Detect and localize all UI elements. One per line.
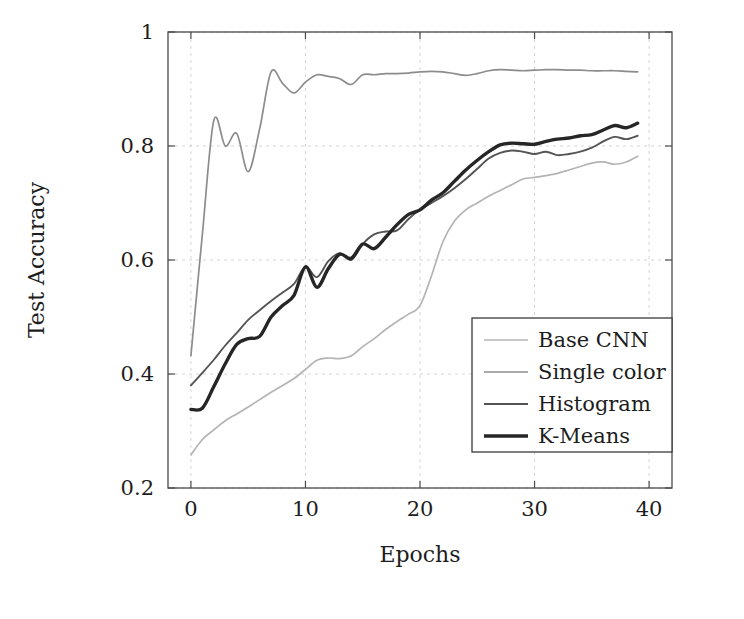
y-axis-title: Test Accuracy bbox=[24, 181, 49, 338]
y-axis-tick-labels: 0.20.40.60.81 bbox=[121, 20, 154, 500]
y-tick-label: 1 bbox=[141, 20, 154, 44]
legend-label-k-means: K-Means bbox=[538, 424, 630, 448]
x-tick-label: 10 bbox=[292, 497, 319, 521]
test-accuracy-line-chart: 010203040 0.20.40.60.81 Base CNNSingle c… bbox=[0, 0, 744, 619]
legend-label-histogram: Histogram bbox=[538, 392, 651, 416]
x-axis-tick-labels: 010203040 bbox=[184, 497, 662, 521]
y-tick-label: 0.2 bbox=[121, 476, 154, 500]
x-tick-label: 20 bbox=[407, 497, 434, 521]
chart-legend: Base CNNSingle colorHistogramK-Means bbox=[472, 318, 672, 452]
x-axis-title: Epochs bbox=[379, 542, 460, 567]
chart-figure: 010203040 0.20.40.60.81 Base CNNSingle c… bbox=[0, 0, 744, 619]
y-tick-label: 0.4 bbox=[121, 362, 154, 386]
legend-label-base-cnn: Base CNN bbox=[538, 328, 649, 352]
y-tick-label: 0.8 bbox=[121, 134, 154, 158]
y-tick-label: 0.6 bbox=[121, 248, 154, 272]
x-tick-label: 40 bbox=[636, 497, 663, 521]
x-tick-label: 30 bbox=[521, 497, 548, 521]
x-tick-label: 0 bbox=[184, 497, 197, 521]
legend-label-single-color: Single color bbox=[538, 360, 667, 384]
